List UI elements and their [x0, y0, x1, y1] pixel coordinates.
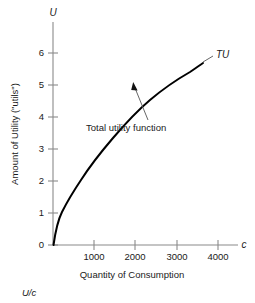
- x-tick-label-4000: 4000: [207, 251, 228, 262]
- y-tick-label-3: 3: [39, 143, 44, 154]
- x-axis-title: Quantity of Consumption: [80, 269, 185, 280]
- y-tick-label-0: 0: [39, 239, 44, 250]
- y-tick-label-6: 6: [39, 47, 44, 58]
- x-tick-label-3000: 3000: [166, 251, 187, 262]
- y-tick-label-1: 1: [39, 207, 44, 218]
- figure-footnote: U/c: [22, 287, 37, 298]
- utility-chart: 0 1 2 3 4 5 6 1000 2000 3000 4000 U c TU…: [0, 0, 255, 303]
- x-tick-label-1000: 1000: [83, 251, 104, 262]
- y-tick-label-2: 2: [39, 175, 44, 186]
- y-axis-variable-label: U: [49, 7, 57, 18]
- y-tick-label-5: 5: [39, 79, 44, 90]
- tu-curve-label: TU: [216, 49, 230, 60]
- x-axis-variable-label: c: [242, 239, 247, 250]
- annotation-total-utility-function: Total utility function: [86, 122, 166, 133]
- y-tick-label-4: 4: [39, 111, 44, 122]
- x-tick-label-2000: 2000: [124, 251, 145, 262]
- y-axis-title: Amount of Utility ("utils"): [9, 83, 20, 185]
